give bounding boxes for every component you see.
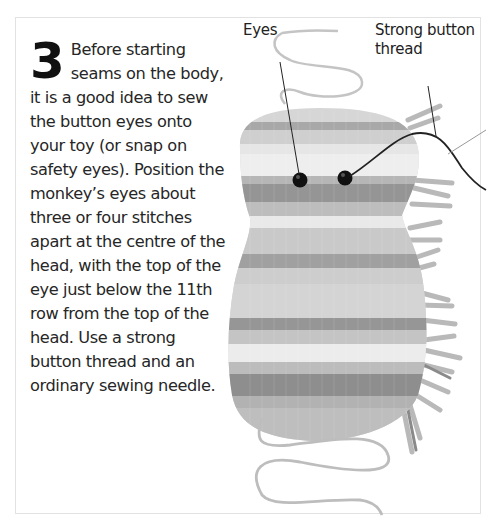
knitted-monkey-illustration xyxy=(0,0,501,522)
button-eye-right xyxy=(338,171,353,186)
button-eye-left xyxy=(293,173,308,188)
yarn-tail-top xyxy=(274,30,362,104)
knitted-body xyxy=(220,100,440,450)
thread-label: Strong button thread xyxy=(375,21,495,59)
eyes-label: Eyes xyxy=(243,21,277,40)
